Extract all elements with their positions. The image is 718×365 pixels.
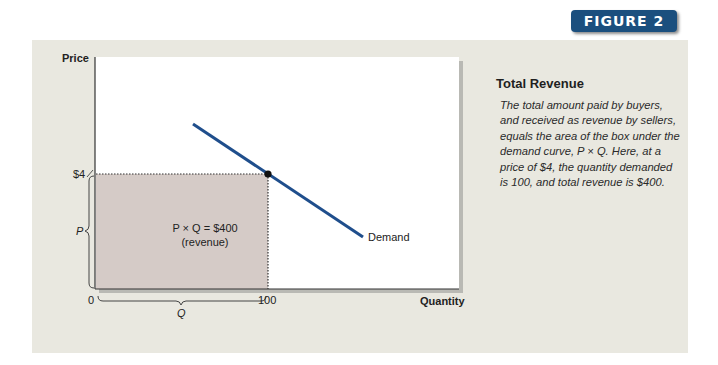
x-axis-label: Quantity [420,295,465,307]
origin-label: 0 [88,294,94,306]
sidebar-title: Total Revenue [496,76,584,91]
equilibrium-point [264,170,271,177]
y-axis-label: Price [62,52,89,64]
p-brace-label: P [76,225,83,237]
q-brace-label: Q [177,307,186,319]
revenue-box-formula: P × Q = $400 [120,222,290,234]
sidebar-description: The total amount paid by buyers, and rec… [500,98,680,190]
quantity-tick-label: 100 [258,294,276,306]
p-brace [85,176,94,288]
revenue-box-caption: (revenue) [120,236,290,248]
price-tick-label: $4 [73,168,85,180]
q-brace [98,296,266,305]
demand-curve-label: Demand [368,231,410,243]
